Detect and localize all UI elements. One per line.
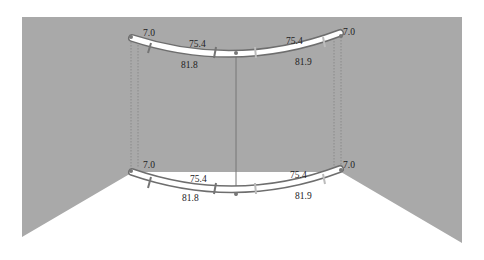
top-inner-left-label: 75.4	[189, 39, 206, 49]
bottom-inner-right-label: 75.4	[290, 170, 307, 180]
bottom-outer-left-label: 81.8	[182, 193, 199, 203]
bottom-end-left-label: 7.0	[143, 160, 155, 170]
top-outer-right-label: 81.9	[295, 57, 312, 67]
top-end-left-label: 7.0	[143, 28, 155, 38]
bottom-outer-right-label: 81.9	[295, 191, 312, 201]
bottom-inner-left-label: 75.4	[190, 174, 207, 184]
top-end-right-label: 7.0	[343, 27, 355, 37]
bottom-end-right-label: 7.0	[343, 160, 355, 170]
top-inner-right-label: 75.4	[286, 36, 303, 46]
shower-rail-diagram: 7.0 7.0 75.4 75.4 81.8 81.9 7.0 7.0 75.4…	[0, 0, 484, 260]
top-outer-left-label: 81.8	[181, 60, 198, 70]
